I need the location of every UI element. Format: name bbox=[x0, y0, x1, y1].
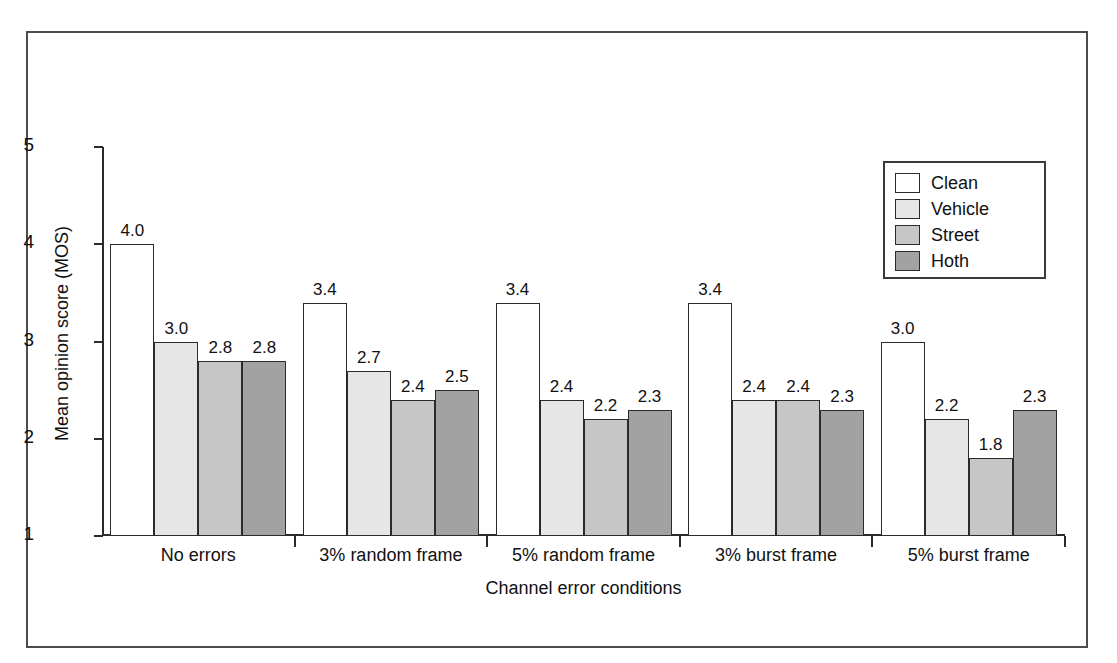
x-axis-category-label: 5% random frame bbox=[487, 545, 680, 566]
bar-hoth-3 bbox=[820, 410, 864, 536]
bar-value-label: 3.4 bbox=[491, 280, 545, 300]
legend-item-hoth: Hoth bbox=[895, 248, 1034, 273]
bar-vehicle-3 bbox=[732, 400, 776, 536]
bar-clean-1 bbox=[303, 303, 347, 536]
bar-value-label: 2.3 bbox=[1008, 387, 1062, 407]
bar-hoth-2 bbox=[628, 410, 672, 536]
bar-street-1 bbox=[391, 400, 435, 536]
legend-swatch-icon bbox=[895, 199, 920, 219]
bar-value-label: 2.3 bbox=[623, 387, 677, 407]
x-axis-category-label: 5% burst frame bbox=[872, 545, 1065, 566]
x-axis-category-label: 3% random frame bbox=[295, 545, 488, 566]
bar-value-label: 2.2 bbox=[920, 396, 974, 416]
legend-label: Vehicle bbox=[931, 200, 989, 218]
legend-label: Hoth bbox=[931, 252, 969, 270]
legend-swatch-icon bbox=[895, 173, 920, 193]
bar-clean-3 bbox=[688, 303, 732, 536]
bar-value-label: 1.8 bbox=[964, 435, 1018, 455]
bar-clean-2 bbox=[496, 303, 540, 536]
bar-value-label: 3.0 bbox=[876, 319, 930, 339]
legend-label: Street bbox=[931, 226, 979, 244]
plot-area: 12345 Mean opinion score (MOS) 4.03.02.8… bbox=[28, 33, 1090, 650]
bars-layer: 4.03.02.82.83.42.72.42.53.42.42.22.33.42… bbox=[28, 33, 1090, 536]
legend-swatch-icon bbox=[895, 225, 920, 245]
bar-hoth-1 bbox=[435, 390, 479, 536]
bar-value-label: 2.3 bbox=[815, 387, 869, 407]
bar-value-label: 2.7 bbox=[342, 348, 396, 368]
bar-hoth-4 bbox=[1013, 410, 1057, 536]
bar-clean-4 bbox=[881, 342, 925, 537]
bar-value-label: 3.4 bbox=[683, 280, 737, 300]
bar-value-label: 3.4 bbox=[298, 280, 352, 300]
bar-value-label: 2.8 bbox=[237, 338, 291, 358]
bar-value-label: 3.0 bbox=[149, 319, 203, 339]
legend: CleanVehicleStreetHoth bbox=[883, 161, 1046, 279]
x-axis-title: Channel error conditions bbox=[102, 578, 1065, 599]
legend-item-vehicle: Vehicle bbox=[895, 196, 1034, 221]
bar-vehicle-4 bbox=[925, 419, 969, 536]
figure-root: 12345 Mean opinion score (MOS) 4.03.02.8… bbox=[0, 0, 1117, 663]
x-axis-category-label: No errors bbox=[102, 545, 295, 566]
x-axis-category-label: 3% burst frame bbox=[680, 545, 873, 566]
bar-street-4 bbox=[969, 458, 1013, 536]
bar-value-label: 4.0 bbox=[105, 221, 159, 241]
bar-hoth-0 bbox=[242, 361, 286, 536]
page-bleed-text bbox=[0, 0, 1117, 16]
legend-item-clean: Clean bbox=[895, 170, 1034, 195]
figure-frame: 12345 Mean opinion score (MOS) 4.03.02.8… bbox=[26, 31, 1088, 648]
legend-label: Clean bbox=[931, 174, 978, 192]
bar-vehicle-1 bbox=[347, 371, 391, 536]
bar-clean-0 bbox=[110, 244, 154, 536]
bar-vehicle-2 bbox=[540, 400, 584, 536]
bar-value-label: 2.4 bbox=[535, 377, 589, 397]
bar-value-label: 2.5 bbox=[430, 367, 484, 387]
bar-street-2 bbox=[584, 419, 628, 536]
bar-street-3 bbox=[776, 400, 820, 536]
bar-vehicle-0 bbox=[154, 342, 198, 537]
bar-street-0 bbox=[198, 361, 242, 536]
legend-swatch-icon bbox=[895, 251, 920, 271]
legend-item-street: Street bbox=[895, 222, 1034, 247]
